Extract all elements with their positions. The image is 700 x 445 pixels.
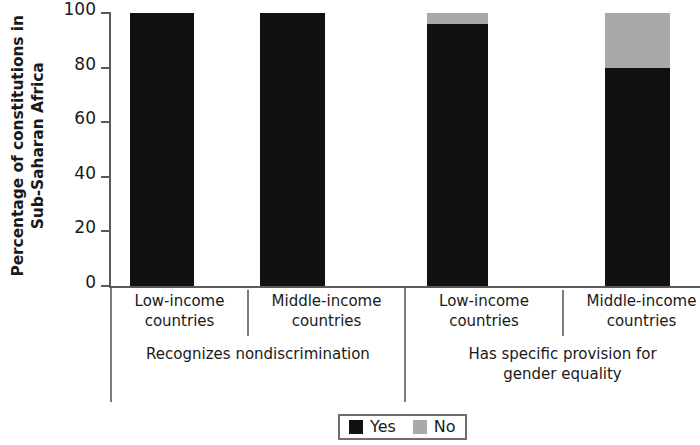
x-axis-category-table: Low-income countries Middle-income count… <box>110 288 700 402</box>
legend-item-yes[interactable]: Yes <box>349 419 396 435</box>
bar-segment-no <box>427 13 488 24</box>
chart-legend: Yes No <box>338 414 467 440</box>
y-tick-label-0: 0 <box>85 274 96 291</box>
category-label-line-2: countries <box>406 312 562 332</box>
category-label-group2-middle-income: Middle-income countries <box>564 292 700 332</box>
legend-item-no[interactable]: No <box>413 419 456 435</box>
group-label-line-2: gender equality <box>406 365 700 385</box>
bar-group2-middle-income <box>605 13 670 286</box>
y-tick-label-20: 20 <box>74 219 96 236</box>
bar-segment-yes <box>427 24 488 286</box>
bar-segment-yes <box>130 13 194 286</box>
y-axis-ticks: 100 80 60 40 20 0 <box>0 0 110 300</box>
bar-group1-low-income <box>130 13 194 286</box>
bar-chart: Percentage of constitutions in Sub-Sahar… <box>0 0 700 445</box>
y-tick-label-60: 60 <box>74 110 96 127</box>
category-label-line-1: Low-income <box>406 292 562 312</box>
group-label-line-1: Recognizes nondiscrimination <box>112 345 404 365</box>
category-label-line-1: Low-income <box>112 292 247 312</box>
category-label-line-2: countries <box>249 312 404 332</box>
bar-segment-yes <box>260 13 325 286</box>
category-label-line-2: countries <box>112 312 247 332</box>
category-label-line-1: Middle-income <box>564 292 700 312</box>
y-tick-label-40: 40 <box>74 165 96 182</box>
group-label-line-1: Has specific provision for <box>406 345 700 365</box>
category-label-group1-middle-income: Middle-income countries <box>249 292 404 332</box>
category-label-group1-low-income: Low-income countries <box>112 292 247 332</box>
bar-segment-no <box>605 13 670 68</box>
plot-area <box>110 13 700 286</box>
legend-swatch-no-icon <box>413 420 427 434</box>
category-label-line-1: Middle-income <box>249 292 404 312</box>
group-label-recognizes-nondiscrimination: Recognizes nondiscrimination <box>112 345 404 365</box>
group-label-gender-equality: Has specific provision for gender equali… <box>406 345 700 385</box>
bar-group1-middle-income <box>260 13 325 286</box>
category-label-line-2: countries <box>564 312 700 332</box>
legend-label-yes: Yes <box>370 419 396 435</box>
legend-label-no: No <box>434 419 456 435</box>
y-tick-label-80: 80 <box>74 56 96 73</box>
legend-swatch-yes-icon <box>349 420 363 434</box>
y-tick-label-100: 100 <box>64 1 96 18</box>
category-label-group2-low-income: Low-income countries <box>406 292 562 332</box>
bar-group2-low-income <box>427 13 488 286</box>
bar-segment-yes <box>605 68 670 286</box>
